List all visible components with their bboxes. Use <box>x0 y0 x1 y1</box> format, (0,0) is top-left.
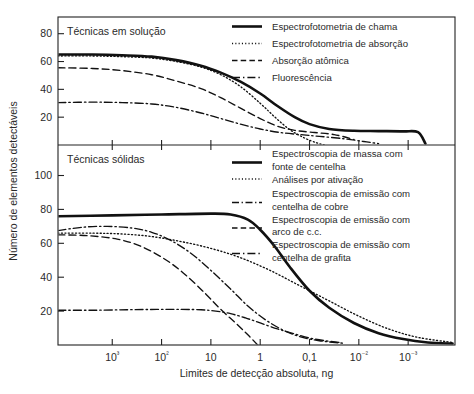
y-tick-label-upper-40: 40 <box>40 83 52 95</box>
x-tick-label-4: 0,1 <box>302 351 317 363</box>
legend-label-lower-4-line1: Espectroscopia de emissão com <box>272 239 410 250</box>
legend-label-lower-2-line1: Espectroscopia de emissão com <box>272 188 410 199</box>
y-tick-label-lower-80: 80 <box>40 203 52 215</box>
legend-label-lower-3-line1: Espectroscopia de emissão com <box>272 214 410 225</box>
legend-label-lower-4-line2: centelha de grafita <box>272 252 352 263</box>
legend-label-lower-0-line2: fonte de centelha <box>272 161 346 172</box>
legend-label-lower-3-line2: arco de c.c. <box>272 226 322 237</box>
plot-frame <box>58 17 455 345</box>
y-tick-label-lower-100: 100 <box>34 169 52 181</box>
panel-title-lower: Técnicas sólidas <box>67 153 145 165</box>
y-tick-label-upper-20: 20 <box>40 111 52 123</box>
x-tick-label-1: 10² <box>154 350 169 363</box>
x-tick-label-5: 10⁻² <box>350 350 369 363</box>
panel-title-upper: Técnicas em solução <box>67 25 166 37</box>
x-tick-label-3: 1 <box>257 351 263 363</box>
y-tick-label-lower-60: 60 <box>40 237 52 249</box>
series-curve-lower-4 <box>58 309 339 342</box>
legend-label-lower-1-line1: Análises por ativação <box>272 174 363 185</box>
legend-label-upper-1: Espectrofotometria de absorção <box>272 38 408 49</box>
series-curve-lower-3 <box>58 235 258 345</box>
legend-label-lower-2-line2: centelha de cobre <box>272 201 348 212</box>
y-tick-label-lower-20: 20 <box>40 305 52 317</box>
y-axis-title: Número de elementos detectáveis <box>7 101 19 260</box>
series-curve-upper-0 <box>58 55 425 144</box>
x-axis-title: Limites de detecção absoluta, ng <box>180 367 334 379</box>
legend-label-upper-3: Fluorescência <box>272 72 332 83</box>
series-curve-upper-3 <box>58 102 379 143</box>
x-tick-label-0: 10³ <box>105 350 120 363</box>
x-tick-label-6: 10⁻³ <box>399 350 418 363</box>
x-tick-label-2: 10 <box>205 351 217 363</box>
chart-figure: 20406080Técnicas em solução20406080100Té… <box>0 0 474 394</box>
y-tick-label-upper-80: 80 <box>40 27 52 39</box>
y-tick-label-upper-60: 60 <box>40 55 52 67</box>
legend-label-lower-0-line1: Espectroscopia de massa com <box>272 148 403 159</box>
y-tick-label-lower-40: 40 <box>40 271 52 283</box>
chart-canvas: 20406080Técnicas em solução20406080100Té… <box>0 0 474 394</box>
legend-label-upper-0: Espectrofotometria de chama <box>272 21 398 32</box>
legend-label-upper-2: Absorção atômica <box>272 55 349 66</box>
